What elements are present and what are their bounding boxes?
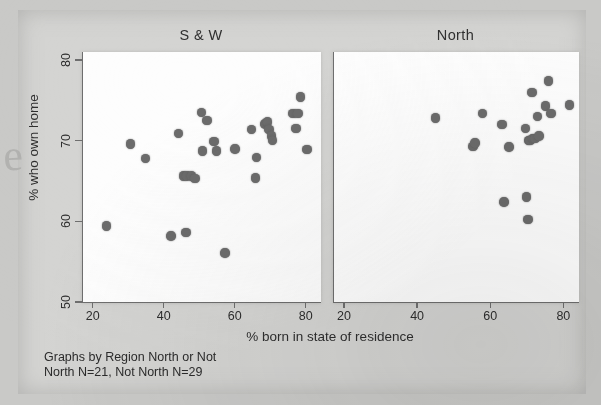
data-point [251,173,261,183]
data-point [198,146,208,156]
x-tick-mark [234,302,235,308]
data-point [190,174,200,184]
plot-area-sw [83,52,321,302]
data-point [293,109,303,119]
data-point [533,112,543,122]
data-point [247,125,257,135]
data-point [230,144,240,154]
y-tick-mark [75,221,82,222]
data-point [499,197,509,207]
data-point [521,124,531,134]
figure-root: e S & W North % who own home 50607080 20… [0,0,601,405]
y-tick-label: 60 [59,211,73,231]
y-axis-label: % who own home [26,53,41,243]
plot-area-north [334,52,579,302]
x-axis-label: % born in state of residence [82,329,578,344]
x-tick-label: 20 [327,309,361,323]
data-point [166,231,176,241]
y-tick-label: 50 [59,292,73,312]
x-tick-mark [343,302,344,308]
data-point [478,109,488,119]
figure-caption: Graphs by Region North or Not North N=21… [44,350,216,379]
x-tick-label: 80 [546,309,580,323]
data-point [126,139,136,149]
page-bleed-artifact: e [0,125,28,186]
data-point [546,109,556,119]
x-tick-label: 80 [289,309,323,323]
data-point [252,153,262,163]
x-tick-label: 20 [76,309,110,323]
data-point [202,116,212,126]
data-point [534,131,544,141]
x-tick-label: 40 [147,309,181,323]
data-point [565,100,575,110]
data-point [291,124,301,134]
x-tick-mark [305,302,306,308]
y-tick-label: 80 [59,50,73,70]
data-point [141,154,151,164]
panel-title-sw: S & W [82,27,320,43]
y-tick-mark [75,140,82,141]
x-tick-mark [92,302,93,308]
x-tick-mark [490,302,491,308]
data-point [470,138,480,148]
x-tick-label: 60 [218,309,252,323]
data-point [181,228,191,238]
plot-panel-north [333,52,579,303]
x-tick-mark [563,302,564,308]
data-point [431,113,441,123]
data-point [504,142,514,152]
x-tick-mark [163,302,164,308]
data-point [523,215,533,225]
data-point [212,146,222,156]
data-point [174,129,184,139]
data-point [102,221,112,231]
x-tick-label: 40 [400,309,434,323]
data-point [220,248,230,258]
x-tick-label: 60 [473,309,507,323]
panel-title-north: North [333,27,578,43]
data-point [544,76,554,86]
y-tick-label: 70 [59,131,73,151]
plot-panel-sw [82,52,321,303]
data-point [268,136,278,146]
data-point [522,192,532,202]
data-point [209,137,219,147]
x-tick-mark [416,302,417,308]
data-point [527,88,537,98]
data-point [497,120,507,130]
data-point [302,145,312,155]
y-tick-mark [75,59,82,60]
data-point [296,92,306,102]
y-tick-mark [75,301,82,302]
